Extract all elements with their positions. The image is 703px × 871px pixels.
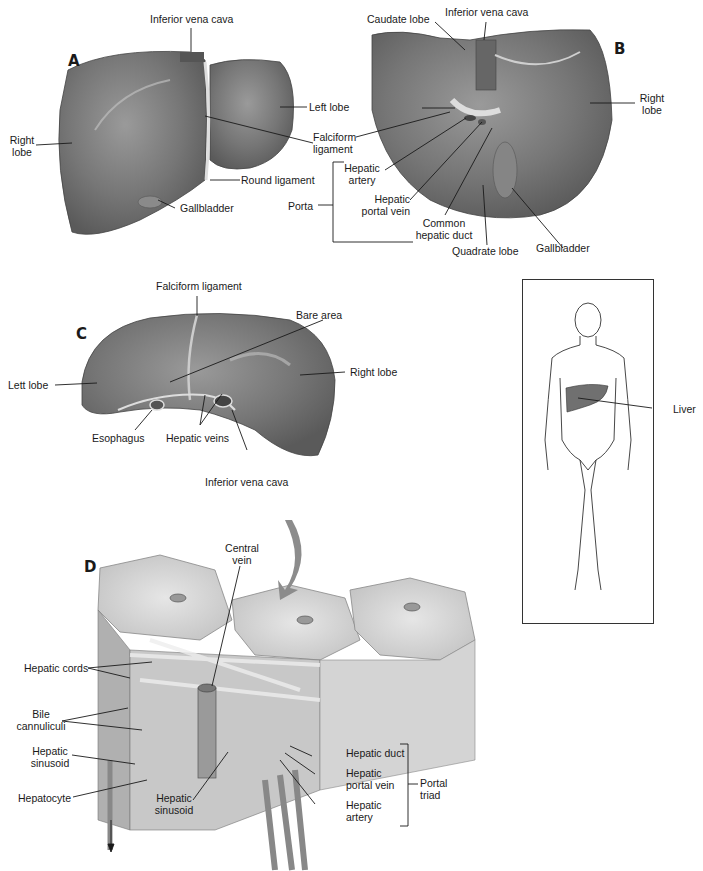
liver-lobule-diagram: [98, 520, 475, 870]
label-a-gallbladder: Gallbladder: [180, 202, 234, 214]
label-b-hepatic-portal-vein: Hepatic portal vein: [355, 193, 410, 217]
label-a-inferior-vena-cava: Inferior vena cava: [150, 13, 233, 25]
liver-anterior-view: [59, 51, 294, 234]
label-d-hepatic-sinusoid-mid: Hepatic sinusoid: [154, 792, 194, 816]
label-b-hepatic-artery: Hepatic artery: [342, 162, 382, 186]
label-c-inferior-vena-cava: Inferior vena cava: [205, 476, 288, 488]
label-a-right-lobe: Right lobe: [8, 134, 36, 158]
label-a-left-lobe: Left lobe: [309, 101, 349, 113]
label-d-portal-triad: Portal triad: [420, 777, 447, 801]
label-c-left-lobe: Lett lobe: [8, 379, 48, 391]
label-c-bare-area: Bare area: [296, 309, 342, 321]
label-d-hepatic-sinusoid-left: Hepatic sinusoid: [30, 745, 70, 769]
label-c-esophagus: Esophagus: [92, 432, 145, 444]
label-b-quadrate-lobe: Quadrate lobe: [452, 245, 519, 257]
panel-letter-d: D: [84, 558, 96, 576]
label-b-inferior-vena-cava: Inferior vena cava: [445, 6, 528, 18]
label-d-hepatic-cords: Hepatic cords: [24, 662, 88, 674]
label-d-hepatic-portal-vein: Hepatic portal vein: [346, 767, 394, 791]
label-c-hepatic-veins: Hepatic veins: [166, 432, 229, 444]
label-b-porta: Porta: [288, 200, 313, 212]
label-d-hepatic-artery: Hepatic artery: [346, 799, 382, 823]
label-b-common-hepatic-duct: Common hepatic duct: [412, 217, 476, 241]
label-b-gallbladder: Gallbladder: [536, 242, 590, 254]
label-c-falciform-ligament: Falciform ligament: [156, 280, 242, 292]
panel-letter-a: A: [68, 52, 80, 70]
label-a-falciform-ligament: Falciform ligament: [313, 131, 356, 155]
label-c-right-lobe: Right lobe: [350, 366, 397, 378]
label-d-central-vein: Central vein: [222, 542, 262, 566]
label-liver: Liver: [673, 403, 696, 415]
panel-letter-b: B: [614, 40, 625, 58]
liver-visceral-view: [372, 30, 612, 218]
label-a-round-ligament: Round ligament: [241, 174, 315, 186]
label-d-hepatocyte: Hepatocyte: [18, 792, 71, 804]
label-d-bile-cannuliculi: Bile cannuliculi: [16, 708, 66, 732]
label-b-right-lobe: Right lobe: [636, 92, 668, 116]
label-b-caudate-lobe: Caudate lobe: [367, 13, 429, 25]
panel-letter-c: C: [76, 325, 87, 343]
liver-anatomy-figure: A Inferior vena cava Right lobe Left lob…: [0, 0, 703, 871]
label-d-hepatic-duct: Hepatic duct: [346, 747, 404, 759]
body-location-panel: [522, 279, 654, 624]
